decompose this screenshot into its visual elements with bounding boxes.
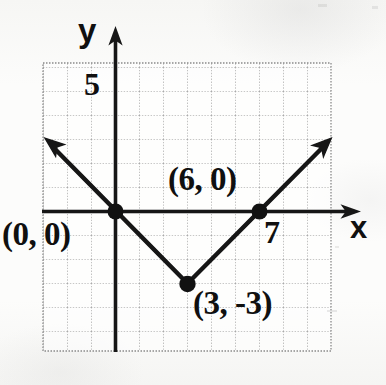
point-0-0 — [108, 204, 124, 220]
y-axis-label: y — [78, 14, 96, 47]
point-label-origin: (0, 0) — [2, 218, 70, 251]
x-axis-label: x — [350, 212, 367, 243]
point-label-vertex: (3, -3) — [193, 287, 272, 320]
point-label-six-zero: (6, 0) — [168, 163, 236, 196]
y-tick-label-5: 5 — [84, 68, 100, 100]
grid-lines — [43, 63, 331, 351]
x-tick-label-7: 7 — [264, 216, 280, 248]
graph-screenshot: y x 5 7 (0, 0) (6, 0) (3, -3) — [0, 0, 386, 385]
